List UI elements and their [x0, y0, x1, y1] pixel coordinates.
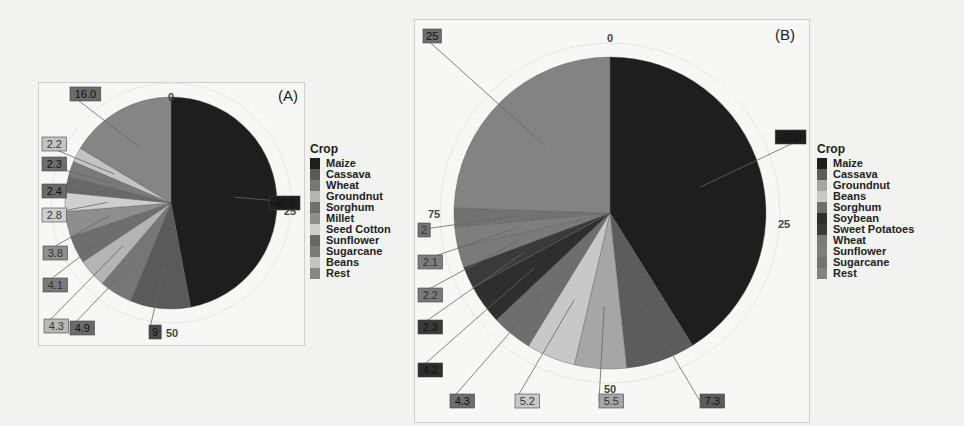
- angle-tick-label: 25: [778, 218, 790, 230]
- legend-swatch: [817, 169, 827, 180]
- value-label: 2.1: [423, 256, 438, 268]
- legend-swatch: [817, 213, 827, 224]
- value-label: 2.3: [423, 321, 438, 333]
- value-label: 5.5: [604, 395, 619, 407]
- value-label: 25: [426, 30, 438, 42]
- legend-swatch: [817, 191, 827, 202]
- legend-swatch: [817, 202, 827, 213]
- legend-swatch: [817, 180, 827, 191]
- value-label: 4.2: [423, 364, 438, 376]
- legend-swatch: [817, 257, 827, 268]
- legend-swatch: [817, 235, 827, 246]
- legend-b: Crop MaizeCassavaGroundnutBeansSorghumSo…: [817, 142, 914, 279]
- legend-swatch: [817, 224, 827, 235]
- value-label: 2: [421, 224, 427, 236]
- value-label: 7.3: [705, 395, 720, 407]
- value-label: 4.3: [455, 395, 470, 407]
- pie-slice-rest: [454, 57, 610, 213]
- legend-title: Crop: [817, 142, 914, 156]
- legend-swatch: [817, 246, 827, 257]
- value-label: 42.0: [780, 131, 801, 143]
- legend-swatch: [817, 268, 827, 279]
- legend-swatch: [817, 158, 827, 169]
- value-label: 5.2: [520, 395, 535, 407]
- panel-tag: (B): [775, 26, 795, 43]
- legend-item-sugarcane: Sugarcane: [817, 257, 914, 268]
- angle-tick-label: 75: [428, 208, 440, 220]
- value-label: 2.2: [423, 289, 438, 301]
- angle-tick-label: 0: [607, 32, 613, 44]
- angle-tick-label: 50: [604, 383, 616, 395]
- legend-item-rest: Rest: [817, 268, 914, 279]
- legend-label: Rest: [833, 268, 857, 279]
